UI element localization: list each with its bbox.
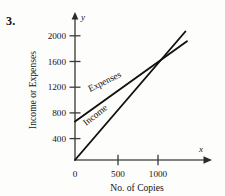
y-tick-label-1200: 1200 <box>48 82 67 92</box>
y-axis-arrowhead <box>72 12 79 20</box>
series-line-income <box>75 32 185 161</box>
figure-container: 3. 400 800 1200 1600 2000 0 500 1000 y x <box>0 0 225 196</box>
y-axis-title: Income or Expenses <box>27 51 38 129</box>
y-tick-label-800: 800 <box>52 108 66 118</box>
x-tick-label-1000: 1000 <box>149 169 168 179</box>
chart-figure: 400 800 1200 1600 2000 0 500 1000 y x Ex… <box>0 0 225 196</box>
x-axis-arrowhead <box>204 156 213 164</box>
y-axis-variable-label: y <box>80 12 85 22</box>
y-tick-label-400: 400 <box>52 134 66 144</box>
y-tick-label-2000: 2000 <box>48 31 67 41</box>
x-axis-title: No. of Copies <box>110 182 164 193</box>
x-axis-variable-label: x <box>198 144 203 154</box>
x-tick-label-0: 0 <box>73 169 78 179</box>
y-tick-label-1600: 1600 <box>48 57 67 67</box>
x-tick-label-500: 500 <box>111 169 125 179</box>
